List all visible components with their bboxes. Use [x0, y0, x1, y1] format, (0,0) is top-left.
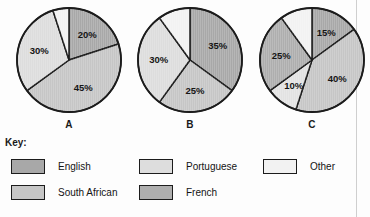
pie-slice-label: 10%: [284, 80, 304, 91]
legend: English South African Portuguese French …: [0, 155, 356, 213]
legend-label-other: Other: [310, 161, 335, 172]
legend-label-english: English: [58, 161, 91, 172]
pie-slice-label: 45%: [74, 82, 94, 93]
pie-slice-label: 30%: [149, 54, 169, 65]
legend-swatch-portuguese: [139, 159, 173, 174]
pie-chart-a: 20%45%30%: [13, 4, 125, 116]
pie-slice-label: 30%: [30, 45, 50, 56]
legend-swatch-french: [139, 185, 173, 200]
pie-chart-c-svg: 15%40%10%25%: [256, 4, 368, 116]
pie-slice-label: 40%: [328, 73, 348, 84]
pie-chart-b-caption: B: [134, 119, 246, 130]
key-title: Key:: [5, 137, 27, 148]
pie-slice-label: 15%: [317, 27, 337, 38]
legend-item-portuguese: Portuguese: [139, 157, 237, 175]
pie-chart-b: 35%25%30%: [134, 4, 246, 116]
pie-chart-c-caption: C: [256, 119, 368, 130]
pie-chart-a-caption: A: [13, 119, 125, 130]
legend-label-french: French: [186, 187, 217, 198]
pie-chart-b-svg: 35%25%30%: [134, 4, 246, 116]
pie-slice-label: 25%: [185, 85, 205, 96]
pie-slice-label: 20%: [78, 29, 98, 40]
legend-item-south-african: South African: [11, 183, 117, 201]
legend-item-french: French: [139, 183, 217, 201]
legend-label-portuguese: Portuguese: [186, 161, 237, 172]
legend-label-south-african: South African: [58, 187, 117, 198]
pie-chart-c: 15%40%10%25%: [256, 4, 368, 116]
legend-swatch-south-african: [11, 185, 45, 200]
legend-item-english: English: [11, 157, 91, 175]
worksheet-page: 20%45%30% 35%25%30% 15%40%10%25% A B C K…: [0, 0, 370, 217]
pie-chart-a-svg: 20%45%30%: [13, 4, 125, 116]
pie-chart-row: 20%45%30% 35%25%30% 15%40%10%25% A B C: [0, 4, 356, 116]
pie-slice-label: 25%: [272, 50, 292, 61]
pie-slice-label: 35%: [208, 40, 228, 51]
legend-item-other: Other: [263, 157, 335, 175]
legend-swatch-other: [263, 159, 297, 174]
legend-swatch-english: [11, 159, 45, 174]
